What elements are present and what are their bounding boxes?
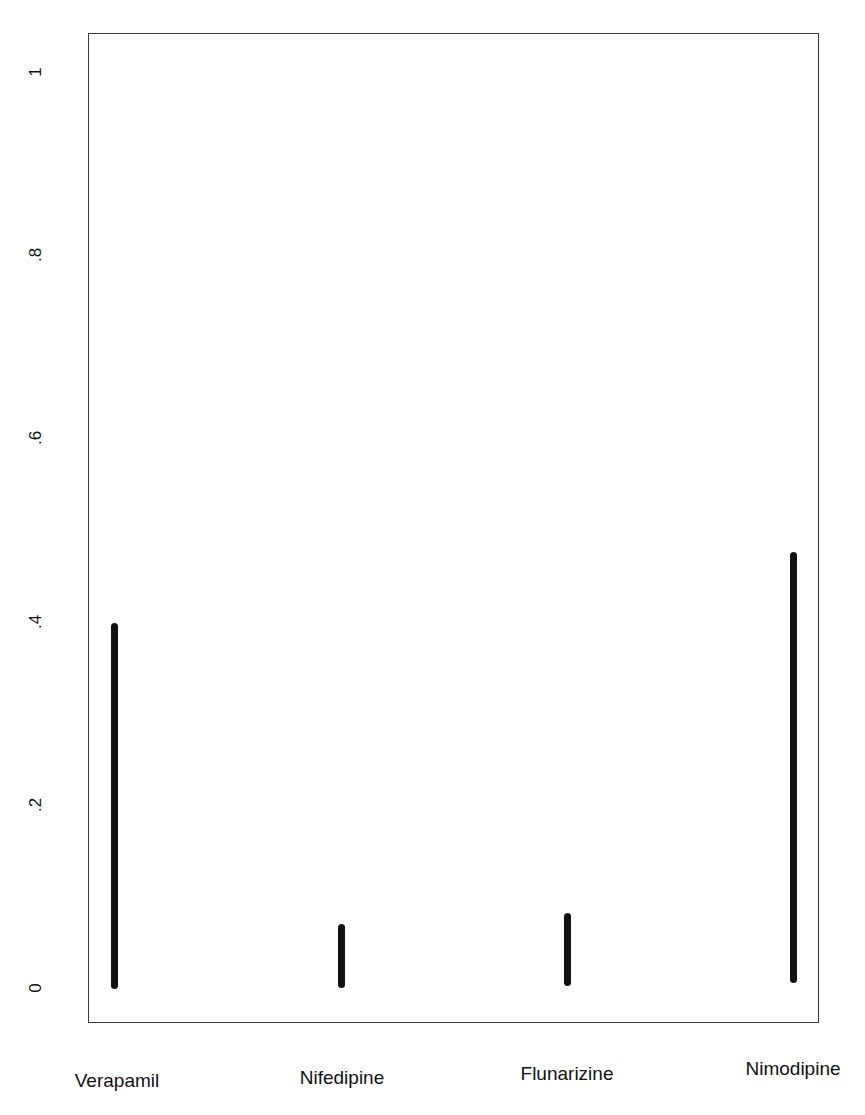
y-tick-label: .4 [26, 615, 46, 629]
needle-bar-chart: 0 .2 .4 .6 .8 1 Verapamil Nifedipine Flu… [0, 0, 865, 1115]
x-label-nimodipine: Nimodipine [745, 1058, 840, 1080]
bar-flunarizine [564, 913, 571, 986]
x-label-verapamil: Verapamil [75, 1070, 160, 1092]
y-tick-label: 0 [26, 983, 46, 992]
x-label-nifedipine: Nifedipine [300, 1067, 385, 1089]
y-tick-label: 1 [26, 67, 46, 76]
y-tick-label: .8 [26, 248, 46, 262]
bar-nimodipine [790, 552, 797, 983]
y-tick-label: .6 [26, 431, 46, 445]
y-tick-label: .2 [26, 798, 46, 812]
bar-verapamil [111, 623, 118, 989]
plot-frame [88, 33, 819, 1023]
bar-nifedipine [338, 924, 345, 988]
x-label-flunarizine: Flunarizine [521, 1063, 614, 1085]
